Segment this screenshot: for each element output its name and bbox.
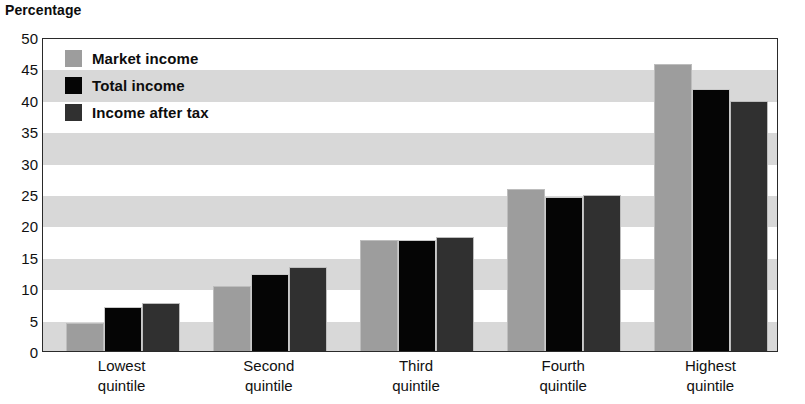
x-axis-label-4: Highestquintile	[640, 356, 780, 396]
bar	[654, 64, 692, 351]
x-axis-label-line: quintile	[52, 376, 192, 396]
legend-item-2: Income after tax	[65, 99, 209, 126]
bar-group	[507, 39, 621, 351]
bar	[545, 197, 583, 351]
y-axis-tick-5: 5	[2, 313, 38, 328]
x-axis-label-line: quintile	[640, 376, 780, 396]
legend-swatch-icon	[65, 50, 82, 67]
x-axis-label-line: Second	[199, 356, 339, 376]
x-axis-label-line: quintile	[493, 376, 633, 396]
y-axis-tick-labels: 50454035302520151050	[0, 38, 38, 352]
x-axis-label-line: Highest	[640, 356, 780, 376]
x-axis-label-2: Thirdquintile	[346, 356, 486, 396]
x-axis-label-line: quintile	[346, 376, 486, 396]
x-axis-label-1: Secondquintile	[199, 356, 339, 396]
page-title: Percentage	[5, 2, 81, 18]
x-axis-label-line: Lowest	[52, 356, 192, 376]
x-axis-label-line: Fourth	[493, 356, 633, 376]
bar	[142, 303, 180, 351]
y-axis-tick-15: 15	[2, 250, 38, 265]
legend-item-0: Market income	[65, 45, 209, 72]
legend-item-label: Total income	[92, 77, 185, 94]
bar-group	[360, 39, 474, 351]
bar	[289, 267, 327, 351]
bar	[213, 286, 251, 351]
legend-item-label: Market income	[92, 50, 198, 67]
bar	[436, 237, 474, 351]
bar-group	[213, 39, 327, 351]
bar	[104, 307, 142, 351]
x-axis-label-line: Third	[346, 356, 486, 376]
y-axis-tick-45: 45	[2, 62, 38, 77]
x-axis-category-labels: LowestquintileSecondquintileThirdquintil…	[42, 356, 778, 402]
y-axis-tick-10: 10	[2, 282, 38, 297]
chart-legend: Market incomeTotal incomeIncome after ta…	[65, 45, 209, 126]
bar	[398, 240, 436, 351]
x-axis-label-line: quintile	[199, 376, 339, 396]
y-axis-tick-50: 50	[2, 31, 38, 46]
x-axis-label-3: Fourthquintile	[493, 356, 633, 396]
bar	[583, 195, 621, 351]
bar-group	[654, 39, 768, 351]
legend-item-label: Income after tax	[92, 104, 209, 121]
chart-container: Percentage 50454035302520151050 Market i…	[0, 0, 805, 404]
y-axis-tick-20: 20	[2, 219, 38, 234]
bar	[251, 274, 289, 351]
legend-swatch-icon	[65, 77, 82, 94]
y-axis-tick-35: 35	[2, 125, 38, 140]
x-axis-label-0: Lowestquintile	[52, 356, 192, 396]
y-axis-tick-30: 30	[2, 156, 38, 171]
bar	[360, 240, 398, 351]
plot-area: Market incomeTotal incomeIncome after ta…	[42, 38, 778, 352]
legend-swatch-icon	[65, 104, 82, 121]
y-axis-tick-25: 25	[2, 188, 38, 203]
bar	[66, 323, 104, 351]
y-axis-tick-40: 40	[2, 93, 38, 108]
y-axis-tick-0: 0	[2, 345, 38, 360]
bar	[730, 101, 768, 351]
bar	[692, 89, 730, 352]
legend-item-1: Total income	[65, 72, 209, 99]
bar	[507, 189, 545, 351]
